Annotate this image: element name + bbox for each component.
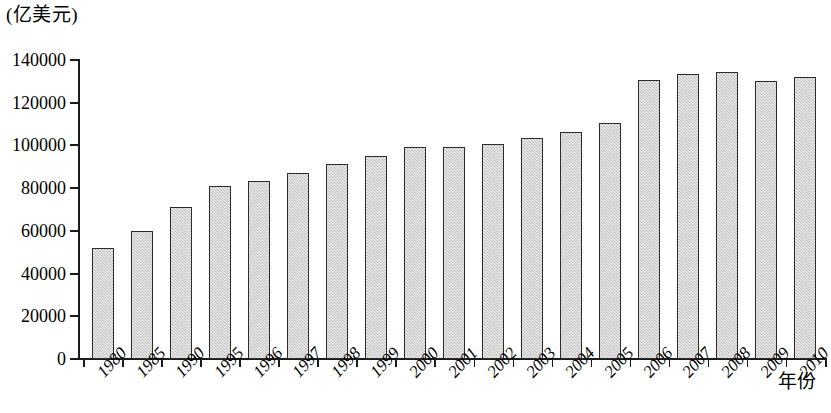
y-axis-labels: 020000400006000080000100000120000140000 (0, 0, 66, 413)
bar-2003 (521, 138, 543, 359)
y-axis-tick-label: 0 (57, 350, 66, 368)
y-axis-tick (70, 273, 79, 275)
y-axis-tick (70, 187, 79, 189)
y-axis-tick (70, 358, 79, 360)
bar-1997 (287, 173, 309, 359)
y-axis-tick (70, 230, 79, 232)
bar-2005 (599, 123, 621, 359)
bar-2008 (716, 72, 738, 359)
y-axis-tick (70, 144, 79, 146)
bar-1998 (326, 164, 348, 359)
bar-2004 (560, 132, 582, 359)
bar-1996 (248, 181, 270, 359)
bar-1999 (365, 156, 387, 359)
bar-2009 (755, 81, 777, 359)
y-axis-tick-label: 60000 (21, 222, 66, 240)
bar-chart-figure: (亿美元) 0200004000060000800001000001200001… (0, 0, 831, 413)
bar-1980 (92, 248, 114, 359)
bar-2001 (443, 147, 465, 360)
y-axis-tick (70, 102, 79, 104)
y-axis-tick (70, 59, 79, 61)
y-axis-tick-label: 140000 (12, 51, 66, 69)
bar-2006 (638, 80, 660, 359)
x-axis-title: 年份 (778, 372, 816, 391)
y-axis-tick-label: 20000 (21, 307, 66, 325)
bar-2010 (794, 77, 816, 359)
bar-1995 (209, 186, 231, 359)
y-axis-tick-label: 120000 (12, 94, 66, 112)
x-axis-tick (83, 359, 85, 367)
y-axis-tick-label: 40000 (21, 265, 66, 283)
bar-2002 (482, 144, 504, 359)
bar-1990 (170, 207, 192, 359)
plot-area (79, 60, 827, 359)
bar-2007 (677, 74, 699, 359)
y-axis-tick-label: 100000 (12, 136, 66, 154)
y-axis-tick (70, 315, 79, 317)
y-axis-tick-label: 80000 (21, 179, 66, 197)
bar-2000 (404, 147, 426, 360)
bar-1985 (131, 231, 153, 359)
